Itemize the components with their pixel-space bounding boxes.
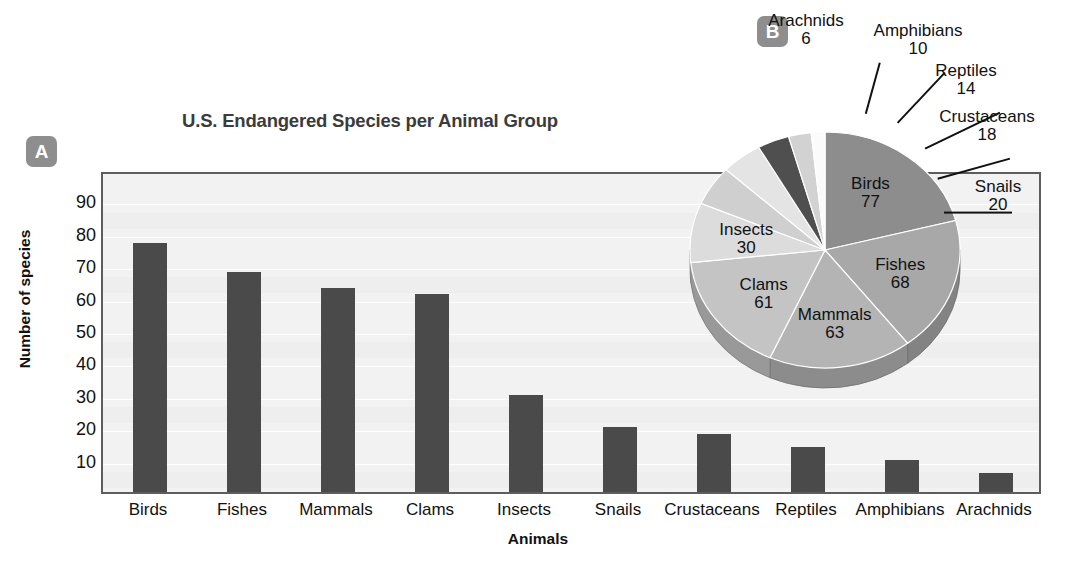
pie-label-value: 61 xyxy=(740,294,788,312)
x-tick-reptiles: Reptiles xyxy=(775,500,836,520)
pie-inner-label-insects: Insects30 xyxy=(719,221,773,257)
pie-label-name: Amphibians xyxy=(874,22,963,40)
x-tick-clams: Clams xyxy=(406,500,454,520)
pie-label-name: Insects xyxy=(719,220,773,239)
pie-label-value: 63 xyxy=(798,324,872,342)
pie-label-name: Birds xyxy=(851,174,890,193)
x-tick-birds: Birds xyxy=(129,500,168,520)
pie-outer-label-reptiles: Reptiles14 xyxy=(935,62,996,98)
x-tick-arachnids: Arachnids xyxy=(956,500,1032,520)
bar-clams xyxy=(415,294,449,492)
figure-root: A B U.S. Endangered Species per Animal G… xyxy=(0,0,1076,576)
bar-arachnids xyxy=(979,473,1013,492)
pie-label-value: 10 xyxy=(874,40,963,58)
bar-chart-title: U.S. Endangered Species per Animal Group xyxy=(150,110,590,132)
bar-mammals xyxy=(321,288,355,492)
y-tick-30: 30 xyxy=(50,386,96,407)
pie-inner-label-birds: Birds77 xyxy=(851,175,890,211)
x-tick-snails: Snails xyxy=(595,500,641,520)
pie-label-name: Arachnids xyxy=(768,12,844,30)
x-tick-insects: Insects xyxy=(497,500,551,520)
pie-label-name: Clams xyxy=(740,275,788,294)
x-axis-label: Animals xyxy=(0,530,1076,548)
bar-reptiles xyxy=(791,447,825,492)
y-tick-50: 50 xyxy=(50,322,96,343)
y-tick-10: 10 xyxy=(50,451,96,472)
pie-label-value: 30 xyxy=(719,239,773,257)
pie-label-value: 20 xyxy=(975,196,1021,214)
bar-amphibians xyxy=(885,460,919,492)
bar-snails xyxy=(603,427,637,492)
leader-line-snails xyxy=(944,212,1012,214)
pie-label-name: Crustaceans xyxy=(939,108,1034,126)
y-tick-90: 90 xyxy=(50,192,96,213)
y-axis-label: Number of species xyxy=(16,189,34,409)
pie-label-name: Mammals xyxy=(798,305,872,324)
pie-outer-label-crustaceans: Crustaceans18 xyxy=(939,108,1034,144)
pie-outer-label-snails: Snails20 xyxy=(975,178,1021,214)
y-tick-70: 70 xyxy=(50,257,96,278)
y-tick-60: 60 xyxy=(50,289,96,310)
pie-label-value: 18 xyxy=(939,126,1034,144)
pie-inner-label-fishes: Fishes68 xyxy=(875,256,925,292)
pie-inner-label-mammals: Mammals63 xyxy=(798,306,872,342)
y-axis-ticks: 908070605040302010 xyxy=(40,0,96,576)
x-tick-crustaceans: Crustaceans xyxy=(664,500,759,520)
x-tick-amphibians: Amphibians xyxy=(856,500,945,520)
y-tick-80: 80 xyxy=(50,224,96,245)
pie-outer-label-arachnids: Arachnids6 xyxy=(768,12,844,48)
pie-label-name: Reptiles xyxy=(935,62,996,80)
pie-label-value: 14 xyxy=(935,80,996,98)
pie-outer-label-amphibians: Amphibians10 xyxy=(874,22,963,58)
pie-label-value: 68 xyxy=(875,274,925,292)
bar-crustaceans xyxy=(697,434,731,492)
x-tick-fishes: Fishes xyxy=(217,500,267,520)
pie-inner-label-clams: Clams61 xyxy=(740,276,788,312)
pie-label-name: Fishes xyxy=(875,255,925,274)
bar-birds xyxy=(133,243,167,492)
x-tick-mammals: Mammals xyxy=(299,500,373,520)
pie-label-name: Snails xyxy=(975,178,1021,196)
pie-label-value: 77 xyxy=(851,193,890,211)
bar-fishes xyxy=(227,272,261,492)
pie-label-value: 6 xyxy=(768,30,844,48)
bar-insects xyxy=(509,395,543,492)
y-tick-40: 40 xyxy=(50,354,96,375)
y-tick-20: 20 xyxy=(50,419,96,440)
